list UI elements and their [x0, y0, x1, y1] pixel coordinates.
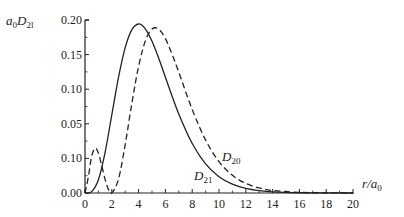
- x-tick-label: 2: [109, 197, 115, 211]
- y-tick-label: 0.20: [61, 13, 82, 27]
- y-tick-label: 0.05: [61, 117, 82, 131]
- y-tick-label: 0.00: [61, 186, 82, 200]
- x-tick-label: 4: [136, 197, 142, 211]
- x-tick-label: 14: [267, 197, 279, 211]
- curves: [85, 24, 353, 194]
- radial-distribution-chart: 0.000.100.050.100.150.20 024681012141618…: [0, 0, 404, 217]
- x-tick-label: 8: [189, 197, 195, 211]
- curve-d20: [85, 28, 353, 194]
- y-tick-label: 0.10: [61, 151, 82, 165]
- curve-label-d20: D20: [221, 149, 241, 166]
- x-axis-title: r/a0: [362, 176, 382, 193]
- x-tick-label: 20: [347, 197, 359, 211]
- x-tick-label: 0: [82, 197, 88, 211]
- y-axis-title: a0D2l: [6, 13, 34, 30]
- x-tick-label: 12: [240, 197, 252, 211]
- curve-d21: [85, 24, 353, 193]
- curve-label-d21: D21: [193, 168, 212, 185]
- x-tick-label: 18: [320, 197, 332, 211]
- x-tick-label: 6: [162, 197, 168, 211]
- y-tick-label: 0.10: [61, 82, 82, 96]
- x-tick-label: 10: [213, 197, 225, 211]
- x-tick-label: 16: [293, 197, 305, 211]
- y-tick-label: 0.15: [61, 48, 82, 62]
